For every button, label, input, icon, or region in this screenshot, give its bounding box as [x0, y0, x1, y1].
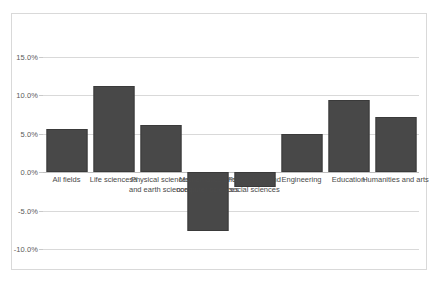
- category-label-humanities-and-arts: Humanities and arts: [361, 175, 431, 185]
- y-axis-tick-label: -5.0%: [18, 206, 38, 215]
- y-axis-tick-label: 15.0%: [16, 53, 38, 62]
- bars-group: [43, 57, 419, 249]
- plot-area: 15.0%10.0%5.0%0.0%-5.0%-10.0% All fields…: [43, 57, 419, 249]
- bar-physical-sciences-and-earth-sciences[interactable]: [140, 125, 181, 172]
- bar-slot: [184, 57, 231, 249]
- bar-all-fields[interactable]: [46, 129, 87, 172]
- gridline-neg100: -10.0%: [43, 249, 419, 250]
- y-axis-tick-label: 5.0%: [21, 129, 39, 138]
- y-axis-tick-label: 10.0%: [16, 91, 38, 100]
- chart-container: 15.0%10.0%5.0%0.0%-5.0%-10.0% All fields…: [11, 13, 427, 270]
- bar-slot: [43, 57, 90, 249]
- bar-slot: [231, 57, 278, 249]
- bar-slot: [137, 57, 184, 249]
- bar-slot: [325, 57, 372, 249]
- y-axis-tickmark: [39, 249, 43, 250]
- y-axis-tick-label: -10.0%: [14, 245, 38, 254]
- bar-engineering[interactable]: [281, 134, 322, 172]
- bar-education[interactable]: [328, 100, 369, 172]
- bar-slot: [90, 57, 137, 249]
- bar-slot: [372, 57, 419, 249]
- bar-life-sciencesa[interactable]: [93, 86, 134, 172]
- bar-humanities-and-arts[interactable]: [375, 117, 416, 172]
- bar-slot: [278, 57, 325, 249]
